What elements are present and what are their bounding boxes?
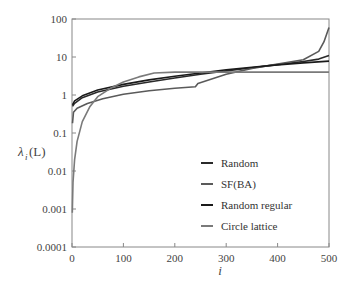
y-axis-label-main: λ xyxy=(17,144,24,159)
x-tick-label: 0 xyxy=(69,252,75,264)
y-tick-label: 0.1 xyxy=(53,127,67,139)
y-tick-label: 0.01 xyxy=(48,165,67,177)
plot-frame xyxy=(72,19,329,247)
legend-label: SF(BA) xyxy=(221,178,256,191)
eigenvalue-chart: 0.00010.0010.010.1110100 010020030040050… xyxy=(0,0,351,290)
legend-label: Circle lattice xyxy=(221,220,278,232)
x-axis-ticks: 0100200300400500 xyxy=(69,243,338,264)
x-tick-label: 500 xyxy=(321,252,338,264)
y-tick-label: 0.0001 xyxy=(37,241,67,253)
x-axis-label: i xyxy=(218,263,222,278)
y-axis-label-sub: i xyxy=(25,152,28,162)
series-line-circle-lattice xyxy=(72,72,329,213)
y-axis-ticks: 0.00010.0010.010.1110100 xyxy=(37,13,76,253)
series-line-random xyxy=(73,55,330,106)
legend-label: Random regular xyxy=(221,199,293,211)
y-tick-label: 0.001 xyxy=(42,203,67,215)
y-axis-label-arg: (L) xyxy=(29,144,46,159)
y-tick-label: 10 xyxy=(56,51,68,63)
y-tick-label: 1 xyxy=(62,89,68,101)
x-tick-label: 400 xyxy=(269,252,286,264)
series-lines xyxy=(72,27,329,212)
series-line-sf-ba- xyxy=(73,27,330,123)
legend: RandomSF(BA)Random regularCircle lattice xyxy=(201,157,293,232)
y-tick-label: 100 xyxy=(51,13,68,25)
x-tick-label: 200 xyxy=(167,252,184,264)
x-tick-label: 100 xyxy=(115,252,132,264)
y-axis-label: λ i (L) xyxy=(17,144,46,162)
legend-label: Random xyxy=(221,157,259,169)
